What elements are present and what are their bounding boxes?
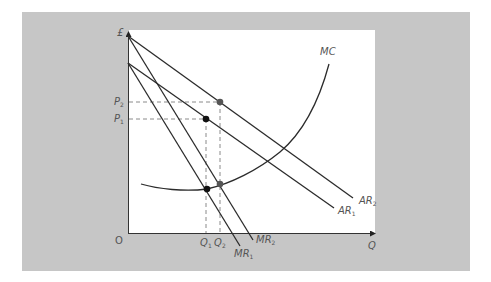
ar1-label: AR1 bbox=[338, 206, 356, 217]
equilibrium-point-p2 bbox=[217, 99, 224, 106]
mc-mr1-intersection bbox=[204, 186, 211, 193]
mc-mr2-intersection bbox=[217, 181, 224, 188]
x-axis-label: Q bbox=[368, 241, 376, 251]
y-axis-label: £ bbox=[117, 28, 123, 38]
ar1-line bbox=[128, 63, 334, 208]
mc-label: MC bbox=[320, 47, 336, 57]
origin-label: O bbox=[115, 236, 123, 246]
mr1-line bbox=[128, 63, 240, 246]
mr1-label: MR1 bbox=[234, 249, 253, 260]
p1-label: P1 bbox=[114, 114, 124, 125]
p2-label: P2 bbox=[114, 97, 124, 108]
mr2-label: MR2 bbox=[256, 235, 275, 246]
mc-curve bbox=[141, 64, 329, 190]
q2-label: Q2 bbox=[214, 238, 226, 249]
equilibrium-point-p1 bbox=[203, 116, 210, 123]
monopoly-diagram bbox=[0, 0, 491, 282]
q1-label: Q1 bbox=[200, 238, 212, 249]
ar2-label: AR2 bbox=[359, 196, 377, 207]
